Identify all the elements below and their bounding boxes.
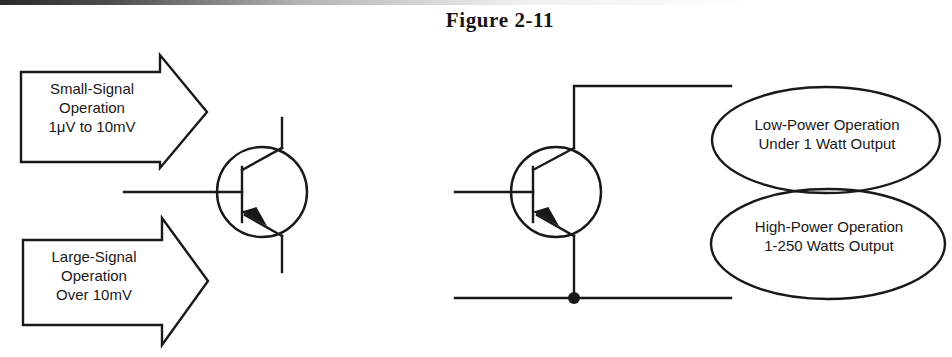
large-signal-line-3: Over 10mV bbox=[28, 285, 160, 304]
low-power-line-2: Under 1 Watt Output bbox=[716, 134, 938, 153]
low-power-callout-text: Low-Power Operation Under 1 Watt Output bbox=[716, 115, 938, 153]
high-power-line-1: High-Power Operation bbox=[716, 217, 942, 236]
low-power-line-1: Low-Power Operation bbox=[716, 115, 938, 134]
large-signal-callout-text: Large-Signal Operation Over 10mV bbox=[28, 247, 160, 304]
right-transistor-symbol bbox=[455, 88, 601, 298]
small-signal-line-3: 1μV to 10mV bbox=[26, 117, 158, 136]
small-signal-line-2: Operation bbox=[26, 98, 158, 117]
figure-page: Figure 2-11 bbox=[0, 0, 952, 357]
large-signal-line-1: Large-Signal bbox=[28, 247, 160, 266]
junction-dot bbox=[568, 292, 580, 304]
small-signal-line-1: Small-Signal bbox=[26, 79, 158, 98]
high-power-callout-text: High-Power Operation 1-250 Watts Output bbox=[716, 217, 942, 255]
left-transistor-emitter-slant bbox=[245, 215, 282, 236]
small-signal-callout-text: Small-Signal Operation 1μV to 10mV bbox=[26, 79, 158, 136]
left-transistor-collector-slant bbox=[242, 148, 282, 170]
high-power-line-2: 1-250 Watts Output bbox=[716, 236, 942, 255]
right-transistor-emitter-slant bbox=[537, 215, 574, 236]
large-signal-line-2: Operation bbox=[28, 266, 160, 285]
